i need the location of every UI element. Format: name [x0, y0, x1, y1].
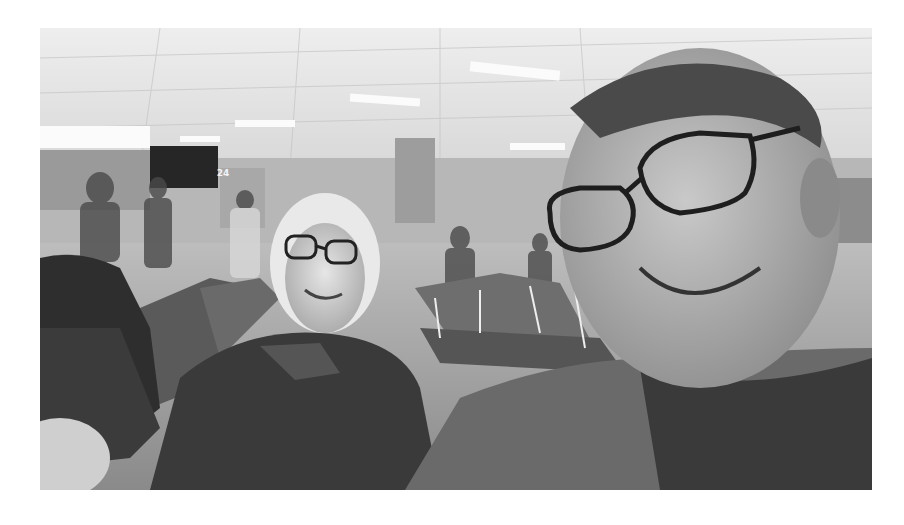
- pillar: [395, 138, 435, 223]
- photo: 24: [40, 28, 872, 490]
- photo-scene: [40, 28, 872, 490]
- gate-number: 24: [216, 168, 230, 178]
- woman-face: [285, 223, 365, 333]
- man-ear: [800, 158, 840, 238]
